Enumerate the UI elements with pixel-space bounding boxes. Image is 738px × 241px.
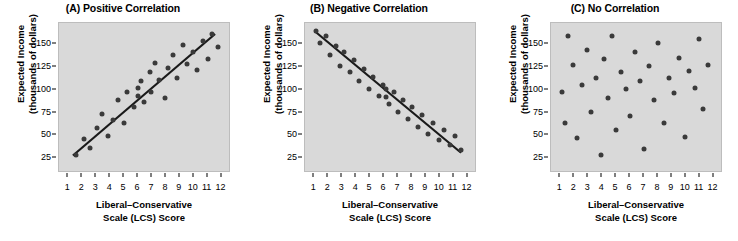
data-point <box>624 86 629 91</box>
y-tick-label: 50 <box>287 129 297 139</box>
data-point <box>148 89 153 94</box>
x-tick-label: 8 <box>162 182 167 192</box>
data-point <box>571 63 576 68</box>
x-tick-label: 7 <box>148 182 153 192</box>
y-tick-mark <box>298 111 302 112</box>
x-tick-mark <box>712 173 713 177</box>
data-point <box>94 126 99 131</box>
data-point <box>700 106 705 111</box>
y-tick-mark <box>544 43 548 44</box>
panel-a-positive-correlation: (A) Positive Correlation Expected Income… <box>0 0 246 241</box>
scatterplot-figure: (A) Positive Correlation Expected Income… <box>0 0 738 241</box>
data-point <box>215 44 220 49</box>
x-tick-mark <box>601 173 602 177</box>
data-point <box>618 70 623 75</box>
y-tick-mark <box>544 88 548 89</box>
y-tick-label: 75 <box>41 107 51 117</box>
data-point <box>383 95 388 100</box>
data-point <box>367 86 372 91</box>
y-tick-label: 125 <box>36 61 51 71</box>
x-tick-label: 9 <box>176 182 181 192</box>
x-tick-label: 1 <box>557 182 562 192</box>
x-tick-mark <box>95 173 96 177</box>
data-point <box>171 52 176 57</box>
data-point <box>376 94 381 99</box>
x-tick-label: 5 <box>613 182 618 192</box>
data-point <box>185 62 190 67</box>
x-tick-mark <box>559 173 560 177</box>
data-point <box>420 113 425 118</box>
data-point <box>139 79 144 84</box>
y-tick-label: 125 <box>528 61 543 71</box>
x-axis-title-line2: Scale (LCS) Score <box>349 212 431 223</box>
data-point <box>136 85 141 90</box>
data-point <box>652 97 657 102</box>
x-tick-label: 12 <box>216 182 226 192</box>
panel-c-x-axis-title: Liberal–Conservative Scale (LCS) Score <box>532 198 738 224</box>
data-point <box>562 121 567 126</box>
y-tick-label: 75 <box>533 107 543 117</box>
data-point <box>593 75 598 80</box>
y-tick-label: 150 <box>282 38 297 48</box>
y-tick-label: 75 <box>287 107 297 117</box>
x-tick-mark <box>81 173 82 177</box>
x-tick-label: 10 <box>680 182 690 192</box>
data-point <box>333 43 338 48</box>
x-tick-label: 2 <box>79 182 84 192</box>
panel-c-trendline <box>551 23 722 172</box>
data-point <box>606 95 611 100</box>
x-tick-mark <box>466 173 467 177</box>
y-tick-mark <box>52 65 56 66</box>
x-tick-label: 12 <box>708 182 718 192</box>
data-point <box>667 75 672 80</box>
data-point <box>431 121 436 126</box>
y-tick-label: 25 <box>533 152 543 162</box>
data-point <box>589 109 594 114</box>
data-point <box>351 58 356 63</box>
x-axis-title-line2: Scale (LCS) Score <box>595 212 677 223</box>
y-tick-mark <box>298 88 302 89</box>
data-point <box>628 114 633 119</box>
x-tick-label: 10 <box>434 182 444 192</box>
y-tick-mark <box>52 134 56 135</box>
x-tick-mark <box>424 173 425 177</box>
x-tick-mark <box>123 173 124 177</box>
x-tick-mark <box>573 173 574 177</box>
x-tick-label: 8 <box>408 182 413 192</box>
x-tick-label: 11 <box>448 182 457 192</box>
data-point <box>392 90 397 95</box>
x-tick-mark <box>313 173 314 177</box>
y-tick-label: 150 <box>528 38 543 48</box>
data-point <box>686 68 691 73</box>
y-tick-label: 50 <box>41 129 51 139</box>
data-point <box>122 121 127 126</box>
x-tick-label: 9 <box>422 182 427 192</box>
data-point <box>115 97 120 102</box>
x-tick-mark <box>341 173 342 177</box>
x-tick-mark <box>109 173 110 177</box>
x-tick-label: 5 <box>367 182 372 192</box>
y-tick-mark <box>52 88 56 89</box>
x-tick-mark <box>206 173 207 177</box>
data-point <box>692 85 697 90</box>
data-point <box>153 61 158 66</box>
data-point <box>656 41 661 46</box>
data-point <box>323 33 328 38</box>
x-tick-label: 12 <box>462 182 472 192</box>
x-tick-mark <box>396 173 397 177</box>
x-tick-mark <box>670 173 671 177</box>
x-tick-label: 3 <box>93 182 98 192</box>
x-tick-mark <box>137 173 138 177</box>
x-tick-label: 9 <box>668 182 673 192</box>
x-tick-mark <box>369 173 370 177</box>
data-point <box>100 112 105 117</box>
data-point <box>410 105 415 110</box>
data-point <box>677 55 682 60</box>
panel-a-trendline <box>59 23 230 172</box>
x-tick-mark <box>192 173 193 177</box>
data-point <box>396 109 401 114</box>
data-point <box>671 91 676 96</box>
data-point <box>661 121 666 126</box>
x-tick-mark <box>684 173 685 177</box>
data-point <box>386 102 391 107</box>
